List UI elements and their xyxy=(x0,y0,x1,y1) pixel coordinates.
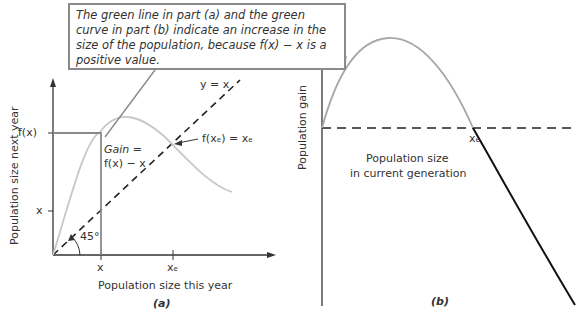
gain-label-2: f(x) − x xyxy=(104,157,146,170)
panel-b-xlabel-2: in current generation xyxy=(350,167,467,180)
panel-a-xlabel: Population size this year xyxy=(98,279,232,292)
tick-fx: f(x) xyxy=(18,126,37,139)
equilibrium-label: f(xₑ) = xₑ xyxy=(202,132,253,145)
panel-a-caption: (a) xyxy=(153,297,170,310)
panel-b-ylabel: Population gain xyxy=(296,85,309,170)
panel-b-xe: xₑ xyxy=(469,132,480,145)
panel-b-caption: (b) xyxy=(431,295,449,308)
negative-gain-curve xyxy=(473,128,575,305)
angle-label: 45° xyxy=(80,230,100,243)
gain-label-1: Gain = xyxy=(104,143,142,156)
panel-b-xlabel-1: Population size xyxy=(366,152,449,165)
tick-x: x xyxy=(97,261,104,274)
callout-box: The green line in part (a) and the green… xyxy=(68,3,346,70)
tick-xe: xₑ xyxy=(167,261,178,274)
tick-x-y: x xyxy=(36,204,43,217)
identity-line-label: y = x xyxy=(200,78,229,91)
